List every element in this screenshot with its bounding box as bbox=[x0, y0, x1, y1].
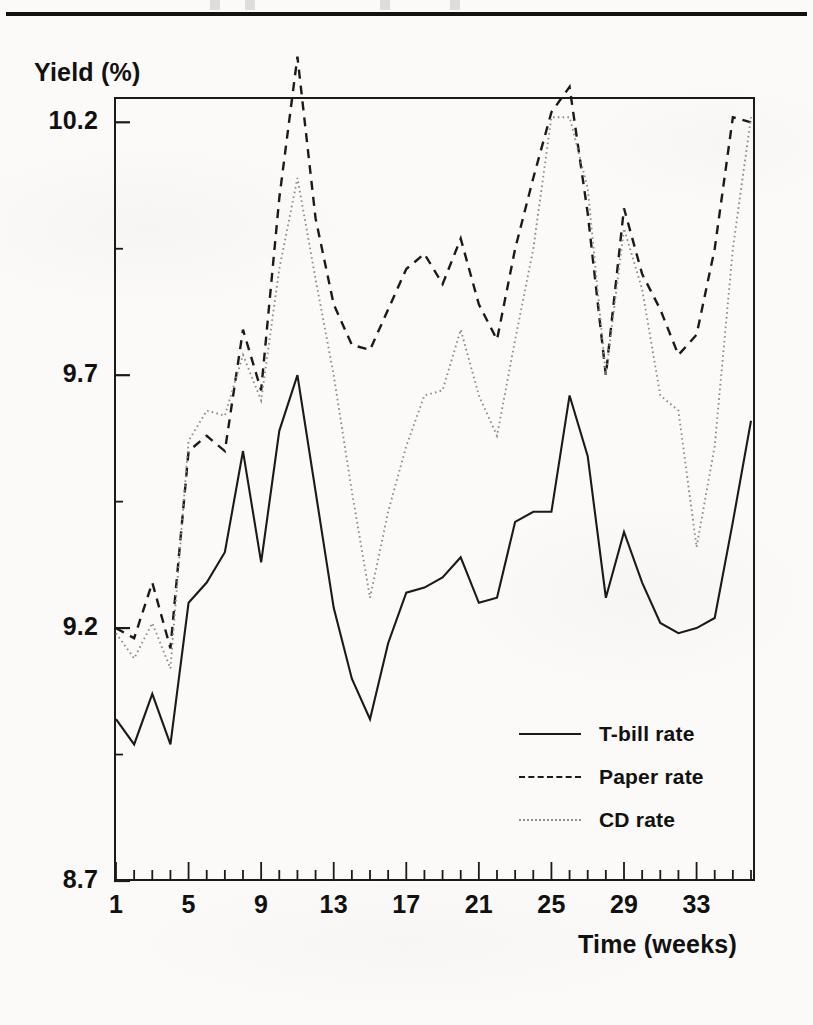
x-tick-label: 17 bbox=[376, 890, 436, 919]
x-tick-label: 25 bbox=[521, 890, 581, 919]
legend-item-label: Paper rate bbox=[599, 765, 704, 789]
legend-item-label: T-bill rate bbox=[599, 722, 695, 746]
x-axis-title: Time (weeks) bbox=[578, 930, 737, 959]
y-axis-title: Yield (%) bbox=[34, 58, 140, 87]
y-tick-label: 8.7 bbox=[6, 865, 98, 894]
legend-item: Paper rate bbox=[519, 755, 734, 798]
legend-item: T-bill rate bbox=[519, 712, 734, 755]
x-tick-label: 1 bbox=[86, 890, 146, 919]
legend-item: CD rate bbox=[519, 798, 734, 841]
x-tick-label: 21 bbox=[449, 890, 509, 919]
header-rule bbox=[6, 12, 807, 16]
legend-line-swatch-dotted bbox=[519, 813, 581, 827]
x-tick-label: 33 bbox=[667, 890, 727, 919]
legend: T-bill ratePaper rateCD rate bbox=[519, 712, 734, 841]
x-tick-label: 29 bbox=[594, 890, 654, 919]
page-header-ghost-text bbox=[150, 0, 650, 10]
legend-swatch-rule bbox=[519, 819, 581, 821]
legend-line-swatch-solid bbox=[519, 727, 581, 741]
legend-swatch-rule bbox=[519, 733, 581, 735]
y-tick-label: 9.2 bbox=[6, 612, 98, 641]
x-tick-label: 13 bbox=[304, 890, 364, 919]
y-tick-label: 9.7 bbox=[6, 359, 98, 388]
x-tick-label: 5 bbox=[159, 890, 219, 919]
legend-line-swatch-dashed bbox=[519, 770, 581, 784]
x-tick-label: 9 bbox=[231, 890, 291, 919]
legend-swatch-rule bbox=[519, 776, 581, 778]
chart-page: Yield (%) Time (weeks) 8.79.29.710.2 159… bbox=[0, 0, 813, 1025]
legend-item-label: CD rate bbox=[599, 808, 675, 832]
y-tick-label: 10.2 bbox=[6, 106, 98, 135]
